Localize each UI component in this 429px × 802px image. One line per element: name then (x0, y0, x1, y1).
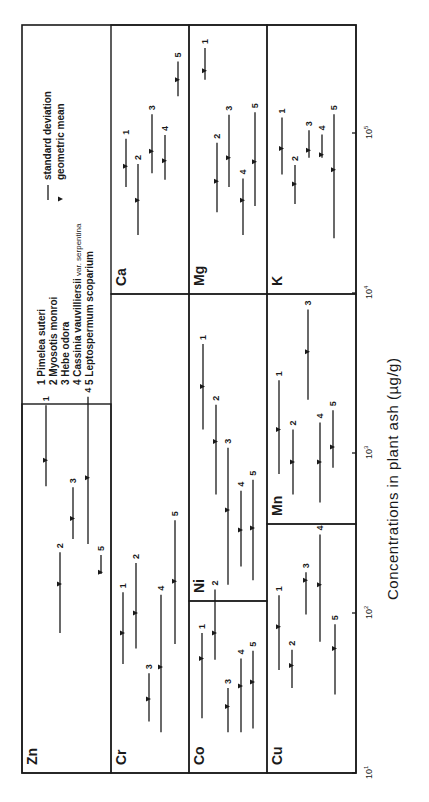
species-number: 1 (277, 108, 287, 113)
legend-std-dev-label: standard deviation (42, 91, 53, 180)
panel-label-k: K (269, 276, 285, 286)
bar-mg-5: 5 (250, 103, 260, 206)
bar-zn-5: 5 (96, 546, 106, 575)
bar-ca-3: 3 (147, 105, 157, 173)
legend-species-4: 4 Cassinia vauvilliersii var. serpentina (72, 223, 83, 385)
bar-cu-2: 2 (287, 641, 297, 688)
species-number: 2 (290, 156, 300, 161)
panel-label-ni: Ni (191, 579, 207, 593)
legend: 1 Pimelea suteri2 Myosotis monroi3 Hebe … (36, 91, 95, 385)
species-number: 1 (41, 396, 51, 401)
panel-label-cu: Cu (269, 746, 285, 765)
bar-co-4: 4 (236, 649, 246, 732)
bar-mg-1: 1 (200, 39, 210, 80)
element-concentration-chart: ZnCrCoNiCuMnCaMgK 1234512345123451234512… (0, 0, 429, 802)
bar-ca-2: 2 (133, 155, 143, 235)
species-number: 4 (315, 414, 325, 419)
bar-ca-1: 1 (121, 130, 131, 187)
species-number: 2 (210, 581, 220, 586)
panel-ca (111, 25, 189, 294)
bar-ca-4: 4 (160, 126, 170, 180)
legend-mean-label: geometric mean (55, 103, 66, 180)
tick-label: 101 (363, 765, 374, 779)
bar-co-5: 5 (248, 642, 258, 729)
species-number: 5 (96, 546, 106, 551)
legend-mean-symbol (58, 197, 63, 202)
species-number: 3 (147, 105, 157, 110)
bar-ni-4: 4 (236, 482, 246, 567)
bar-mn-4: 4 (315, 414, 325, 503)
bar-k-4: 4 (317, 125, 327, 157)
bar-co-3: 3 (223, 679, 233, 732)
species-number: 2 (288, 421, 298, 426)
species-number: 5 (329, 105, 339, 110)
bar-mn-3: 3 (303, 300, 313, 399)
bar-cr-4: 4 (156, 586, 166, 732)
species-number: 1 (121, 130, 131, 135)
bar-cu-4: 4 (315, 525, 325, 642)
species-number: 3 (224, 106, 234, 111)
species-number: 1 (118, 583, 128, 588)
species-number: 4 (236, 482, 246, 487)
species-number: 4 (238, 169, 248, 174)
species-number: 1 (200, 39, 210, 44)
bar-ni-3: 3 (223, 439, 233, 585)
species-number: 3 (304, 121, 314, 126)
species-number: 3 (223, 439, 233, 444)
species-number: 3 (223, 679, 233, 684)
bar-co-2: 2 (210, 581, 220, 660)
species-number: 2 (133, 155, 143, 160)
panel-mn (267, 294, 356, 524)
panel-label-mg: Mg (191, 266, 207, 286)
species-number: 1 (198, 335, 208, 340)
panel-label-zn: Zn (24, 748, 40, 765)
bar-k-1: 1 (277, 108, 287, 174)
bar-mn-2: 2 (288, 421, 298, 495)
bar-k-2: 2 (290, 156, 300, 204)
bar-cr-3: 3 (144, 664, 154, 721)
bar-zn-4: 4 (83, 388, 93, 544)
species-number: 5 (248, 642, 258, 647)
bar-mn-1: 1 (274, 371, 284, 474)
panel-zn (22, 404, 111, 773)
bar-ca-5: 5 (173, 52, 183, 96)
species-number: 4 (83, 388, 93, 393)
species-number: 5 (250, 103, 260, 108)
bar-cu-1: 1 (274, 586, 284, 670)
tick-label: 105 (363, 125, 374, 139)
species-number: 5 (330, 615, 340, 620)
species-number: 5 (248, 471, 258, 476)
panel-label-co: Co (191, 746, 207, 765)
tick-label: 104 (363, 285, 374, 299)
tick-label: 102 (363, 605, 374, 619)
panel-cu (267, 524, 356, 773)
bar-cu-5: 5 (330, 615, 340, 694)
bar-cr-1: 1 (118, 583, 128, 664)
bar-cu-3: 3 (301, 563, 311, 614)
species-number: 3 (301, 563, 311, 568)
species-number: 3 (68, 478, 78, 483)
bar-mg-3: 3 (224, 106, 234, 187)
species-number: 3 (144, 664, 154, 669)
bar-zn-2: 2 (55, 543, 65, 633)
panel-label-mn: Mn (269, 496, 285, 516)
bar-ni-1: 1 (198, 335, 208, 430)
x-axis: 101102103104105Concentrations in plant a… (352, 125, 401, 779)
species-number: 5 (170, 511, 180, 516)
bar-mn-5: 5 (328, 401, 338, 467)
legend-species-1: 1 Pimelea suteri (36, 309, 47, 385)
bar-cr-5: 5 (170, 511, 180, 644)
bar-mg-4: 4 (238, 169, 248, 235)
species-number: 5 (328, 401, 338, 406)
panel-cr (111, 294, 189, 773)
species-number: 2 (212, 134, 222, 139)
bar-k-3: 3 (304, 121, 314, 158)
bar-co-1: 1 (197, 624, 207, 718)
bar-ni-2: 2 (211, 396, 221, 495)
panel-grid: ZnCrCoNiCuMnCaMgK (22, 25, 356, 773)
panel-label-cr: Cr (113, 749, 129, 765)
species-number: 5 (173, 52, 183, 57)
species-number: 2 (211, 396, 221, 401)
chart-figure: ZnCrCoNiCuMnCaMgK 1234512345123451234512… (0, 0, 429, 802)
species-number: 4 (156, 586, 166, 591)
